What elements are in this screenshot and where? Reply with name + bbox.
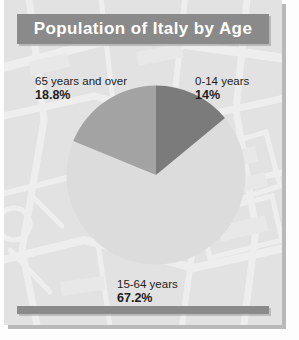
- pie-chart: [62, 81, 250, 269]
- bottom-divider-bar: [17, 306, 269, 314]
- label-15-64-percent: 67.2%: [117, 291, 178, 305]
- label-15-64-name: 15-64 years: [117, 277, 178, 291]
- label-0-14: 0-14 years 14%: [195, 74, 249, 102]
- label-0-14-percent: 14%: [195, 88, 249, 102]
- label-65-and-over-percent: 18.8%: [35, 88, 127, 102]
- infographic-card: Population of Italy by Age 65 years and …: [4, 0, 282, 325]
- title-banner: Population of Italy by Age: [17, 14, 269, 44]
- label-65-and-over: 65 years and over 18.8%: [35, 74, 127, 102]
- page-root: Population of Italy by Age 65 years and …: [0, 0, 299, 340]
- label-65-and-over-name: 65 years and over: [35, 74, 127, 88]
- page-title: Population of Italy by Age: [17, 14, 269, 44]
- label-15-64: 15-64 years 67.2%: [117, 277, 178, 305]
- label-0-14-name: 0-14 years: [195, 74, 249, 88]
